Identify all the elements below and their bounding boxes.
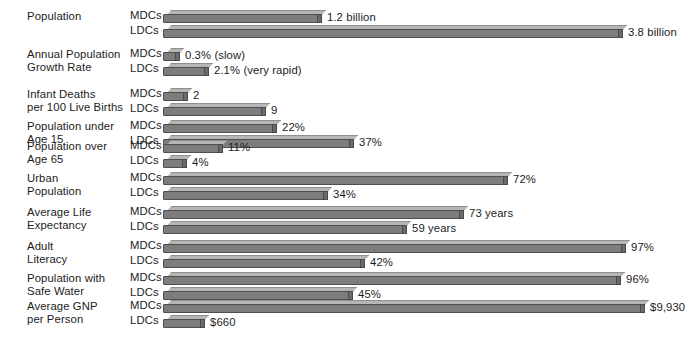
bar-mdcs <box>163 10 323 23</box>
bar-end-cap <box>640 304 645 313</box>
value-label: 96% <box>626 273 649 286</box>
value-label: 72% <box>513 173 536 186</box>
bar-mdcs <box>163 88 189 101</box>
bar-end-cap <box>459 210 464 219</box>
bar-end-cap <box>182 159 187 168</box>
bar-end-cap <box>218 144 223 153</box>
category-label: AdultLiteracy <box>27 240 132 266</box>
bar-ldcs <box>163 63 210 76</box>
category-label: UrbanPopulation <box>27 172 132 198</box>
bar-front-face <box>163 276 617 285</box>
category-label-line2: Safe Water <box>27 285 132 298</box>
bar-mdcs <box>163 206 465 219</box>
category-label: Population withSafe Water <box>27 272 132 298</box>
bar-front-face <box>163 124 273 133</box>
group-label-ldcs: LDCs <box>130 24 159 37</box>
bar-front-face <box>163 304 641 313</box>
bar-end-cap <box>200 319 205 328</box>
category-label-line2: Literacy <box>27 253 132 266</box>
bar-mdcs <box>163 272 622 285</box>
bar-mdcs <box>163 300 646 313</box>
bar-end-cap <box>323 191 328 200</box>
group-label-mdcs: MDCs <box>130 139 162 152</box>
group-label-ldcs: LDCs <box>130 286 159 299</box>
chart-row: Average LifeExpectancyMDCs73 yearsLDCs59… <box>0 206 695 237</box>
group-label-mdcs: MDCs <box>130 239 162 252</box>
bar-front-face <box>163 107 262 116</box>
bar-front-face <box>163 159 183 168</box>
category-label-line1: Annual Population <box>27 48 132 61</box>
bar-front-face <box>163 291 349 300</box>
category-label-line2: per Person <box>27 313 132 326</box>
chart-row: UrbanPopulationMDCs72%LDCs34% <box>0 172 695 203</box>
chart-row: Population withSafe WaterMDCs96%LDCs45% <box>0 272 695 303</box>
category-label-line2: Growth Rate <box>27 61 132 74</box>
bar-end-cap <box>272 124 277 133</box>
chart-row: Population overAge 65MDCs11%LDCs4% <box>0 140 695 171</box>
chart-row: AdultLiteracyMDCs97%LDCs42% <box>0 240 695 271</box>
group-label-ldcs: LDCs <box>130 314 159 327</box>
bar-front-face <box>163 14 318 23</box>
bar-end-cap <box>183 92 188 101</box>
bar-ldcs <box>163 103 267 116</box>
bar-end-cap <box>621 244 626 253</box>
chart-row: Infant Deathsper 100 Live BirthsMDCs2LDC… <box>0 88 695 119</box>
group-label-mdcs: MDCs <box>130 87 162 100</box>
category-label-line1: Population under <box>27 120 132 133</box>
bar-end-cap <box>204 67 209 76</box>
bar-mdcs <box>163 172 509 185</box>
bar-front-face <box>163 259 361 268</box>
value-label: 59 years <box>412 222 456 235</box>
bar-end-cap <box>317 14 322 23</box>
value-label: 97% <box>631 241 654 254</box>
category-label-line2: Population <box>27 185 132 198</box>
bar-front-face <box>163 67 205 76</box>
category-label-line1: Population <box>27 10 132 23</box>
group-label-ldcs: LDCs <box>130 102 159 115</box>
bar-end-cap <box>618 29 623 38</box>
bar-end-cap <box>616 276 621 285</box>
bar-ldcs <box>163 155 188 168</box>
bar-ldcs <box>163 315 206 328</box>
category-label-line1: Infant Deaths <box>27 88 132 101</box>
category-label-line2: Age 65 <box>27 153 132 166</box>
group-label-mdcs: MDCs <box>130 119 162 132</box>
bar-end-cap <box>348 291 353 300</box>
value-label: 11% <box>228 141 250 154</box>
category-label-line1: Average GNP <box>27 300 132 313</box>
group-label-mdcs: MDCs <box>130 205 162 218</box>
bar-ldcs <box>163 221 408 234</box>
category-label-line1: Adult <box>27 240 132 253</box>
value-label: $9,930 <box>650 301 685 314</box>
bar-front-face <box>163 144 219 153</box>
group-label-mdcs: MDCs <box>130 47 162 60</box>
category-label: Population <box>27 10 132 23</box>
category-label-line1: Population over <box>27 140 132 153</box>
chart-row: Annual PopulationGrowth RateMDCs0.3% (sl… <box>0 48 695 79</box>
bar-mdcs <box>163 120 278 133</box>
group-label-ldcs: LDCs <box>130 154 159 167</box>
category-label: Average LifeExpectancy <box>27 206 132 232</box>
bar-mdcs <box>163 240 627 253</box>
category-label: Population overAge 65 <box>27 140 132 166</box>
value-label: 3.8 billion <box>628 26 677 39</box>
bar-front-face <box>163 29 619 38</box>
value-label: 34% <box>333 188 356 201</box>
bar-end-cap <box>261 107 266 116</box>
group-label-ldcs: LDCs <box>130 186 159 199</box>
bar-end-cap <box>503 176 508 185</box>
value-label: 73 years <box>469 207 513 220</box>
category-label: Annual PopulationGrowth Rate <box>27 48 132 74</box>
group-label-ldcs: LDCs <box>130 62 159 75</box>
category-label-line2: per 100 Live Births <box>27 101 132 114</box>
bar-ldcs <box>163 25 624 38</box>
group-label-mdcs: MDCs <box>130 171 162 184</box>
value-label: 1.2 billion <box>327 11 376 24</box>
group-label-ldcs: LDCs <box>130 254 159 267</box>
bar-mdcs <box>163 140 224 153</box>
bar-ldcs <box>163 255 366 268</box>
group-label-ldcs: LDCs <box>130 220 159 233</box>
comparison-bar-chart: PopulationMDCs1.2 billionLDCs3.8 billion… <box>0 0 695 344</box>
group-label-mdcs: MDCs <box>130 271 162 284</box>
chart-row: Average GNPper PersonMDCs$9,930LDCs$660 <box>0 300 695 331</box>
